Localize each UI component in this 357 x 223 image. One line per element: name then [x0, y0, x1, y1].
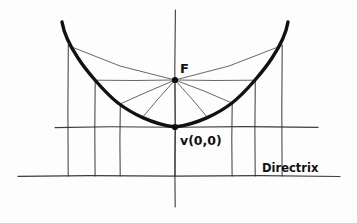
focal-ray-left-mid [120, 80, 175, 104]
directrix-line [18, 176, 340, 177]
directrix-group [18, 176, 340, 177]
focal-ray-left-inner [142, 80, 175, 118]
focal-ray-left-outer [68, 46, 175, 81]
focus-label: F [180, 61, 189, 76]
labels-group: F v(0,0) Directrix [180, 61, 319, 175]
focus-point-dot [172, 77, 178, 83]
vertex-point-dot [172, 124, 178, 130]
focal-ray-right-mid [175, 80, 232, 103]
focal-ray-left-upper [95, 80, 175, 81]
focal-ray-right-outer [175, 46, 282, 81]
vertex-label: v(0,0) [180, 133, 222, 148]
parabola-diagram: F v(0,0) Directrix [0, 0, 357, 223]
focal-ray-right-upper [175, 80, 255, 81]
directrix-label: Directrix [262, 161, 319, 175]
focal-ray-right-inner [175, 80, 208, 118]
parabola-figure: F v(0,0) Directrix [0, 0, 357, 223]
